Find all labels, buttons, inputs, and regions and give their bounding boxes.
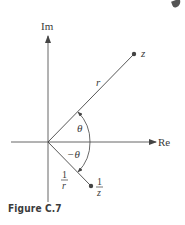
y-axis-label: Im bbox=[41, 20, 54, 32]
complex-plane-diagram: Im Re z r θ −θ 1 r 1 z bbox=[0, 0, 185, 225]
z-point bbox=[132, 52, 136, 56]
x-axis-label: Re bbox=[158, 136, 170, 148]
figure-caption: Figure C.7 bbox=[8, 202, 62, 215]
z-label: z bbox=[140, 47, 146, 59]
reciprocal-denominator: z bbox=[96, 187, 101, 198]
z-vector bbox=[48, 54, 134, 142]
theta-label: θ bbox=[77, 122, 83, 134]
recip-mod-numerator: 1 bbox=[62, 169, 67, 180]
modulus-label: r bbox=[96, 76, 101, 88]
neg-theta-label: −θ bbox=[67, 148, 80, 160]
reciprocal-point bbox=[89, 184, 93, 188]
recip-mod-denominator: r bbox=[62, 180, 66, 191]
reciprocal-numerator: 1 bbox=[97, 176, 102, 187]
